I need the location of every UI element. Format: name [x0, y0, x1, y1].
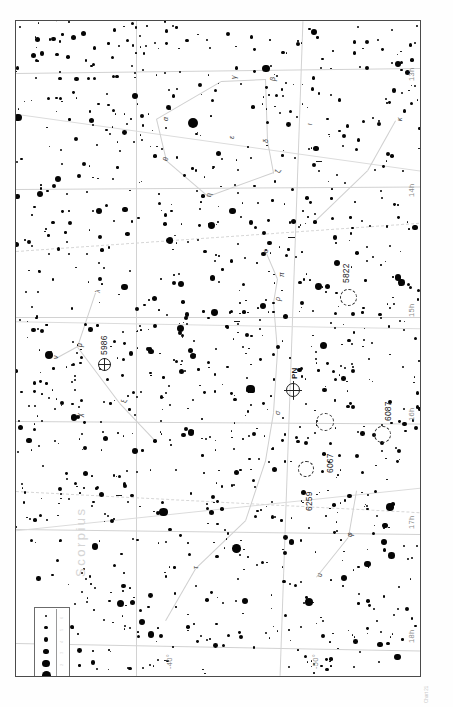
star	[115, 75, 119, 79]
star	[378, 661, 380, 663]
star	[123, 572, 125, 574]
star	[377, 39, 379, 41]
star	[333, 531, 336, 534]
star	[103, 619, 105, 621]
star	[146, 25, 148, 27]
star	[129, 627, 131, 629]
star	[150, 469, 152, 471]
star	[354, 201, 356, 203]
star	[153, 511, 155, 513]
star	[240, 540, 242, 542]
open-cluster-marker-6067[interactable]	[316, 413, 334, 431]
star	[248, 458, 250, 460]
star	[38, 22, 40, 24]
star	[350, 232, 353, 235]
star	[407, 221, 409, 223]
star	[389, 307, 391, 309]
star	[334, 312, 337, 315]
star	[37, 291, 39, 293]
celestial-reference-line	[16, 111, 420, 177]
star	[340, 539, 342, 541]
star	[45, 382, 48, 385]
star	[231, 437, 233, 439]
star	[364, 506, 366, 508]
star	[271, 608, 273, 610]
star	[209, 510, 214, 515]
star	[353, 331, 356, 334]
star	[143, 304, 145, 306]
star-designation-label: ζ	[274, 170, 281, 173]
open-cluster-marker-6259[interactable]	[298, 461, 314, 477]
star	[312, 76, 315, 79]
star	[201, 418, 203, 420]
star	[31, 328, 36, 333]
star	[117, 432, 119, 434]
star	[110, 651, 111, 652]
star	[52, 389, 54, 391]
star	[274, 180, 277, 183]
open-cluster-marker-6087[interactable]	[374, 426, 391, 443]
star	[321, 58, 324, 61]
star	[41, 393, 43, 395]
star	[74, 389, 76, 391]
star	[16, 194, 20, 198]
star	[164, 72, 166, 74]
planetary-nebula-marker[interactable]	[286, 383, 300, 397]
star	[140, 46, 142, 48]
star	[35, 77, 37, 79]
star	[132, 44, 135, 47]
star	[77, 633, 79, 635]
star	[392, 297, 394, 299]
star	[158, 309, 160, 311]
star	[113, 474, 116, 477]
open-cluster-marker-5822[interactable]	[340, 289, 357, 306]
star	[74, 137, 78, 141]
star	[315, 283, 322, 290]
star	[187, 241, 190, 244]
star	[181, 360, 183, 362]
star	[347, 494, 352, 499]
star	[316, 36, 319, 39]
star	[282, 566, 284, 568]
star	[337, 474, 339, 476]
star	[298, 226, 300, 228]
star	[334, 400, 336, 402]
star	[338, 130, 341, 133]
star	[205, 438, 208, 441]
globular-cluster-marker-5986[interactable]	[98, 358, 111, 371]
star	[341, 344, 343, 346]
star	[222, 602, 224, 604]
star	[316, 623, 317, 624]
star	[89, 118, 94, 123]
star	[196, 640, 199, 643]
star	[362, 48, 364, 50]
star	[113, 220, 115, 222]
star-designation-label: ξ	[120, 400, 127, 403]
star	[191, 167, 194, 170]
star	[317, 369, 320, 372]
star	[218, 255, 220, 257]
star	[226, 366, 229, 369]
star	[206, 503, 208, 505]
star	[245, 353, 247, 355]
star	[239, 290, 241, 292]
star	[385, 458, 386, 459]
star	[41, 498, 43, 500]
star	[307, 437, 309, 439]
constellation-line	[367, 121, 396, 171]
star	[252, 479, 255, 482]
star	[94, 587, 96, 589]
star	[35, 37, 40, 42]
star	[309, 279, 311, 281]
star	[201, 454, 204, 457]
star	[398, 420, 401, 423]
star	[242, 438, 244, 440]
star	[224, 529, 226, 531]
object-label-6259: 6259	[305, 491, 314, 511]
star	[250, 469, 252, 471]
star	[335, 242, 337, 244]
star	[337, 512, 339, 514]
star	[148, 631, 155, 638]
star	[136, 471, 139, 474]
star	[52, 184, 56, 188]
